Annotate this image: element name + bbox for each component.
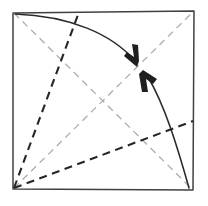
origami-diagram: Origami folding step diagram Hand-drawn … <box>0 0 208 206</box>
arrow-bottom-right-to-center-arc <box>148 77 189 188</box>
crease-bold-steep <box>14 12 79 188</box>
crease-light-diagonal-main <box>14 12 193 188</box>
origami-canvas <box>0 0 208 206</box>
crease-bold-shallow <box>14 121 193 188</box>
arrow-top-left-to-center-head-icon <box>124 44 139 67</box>
